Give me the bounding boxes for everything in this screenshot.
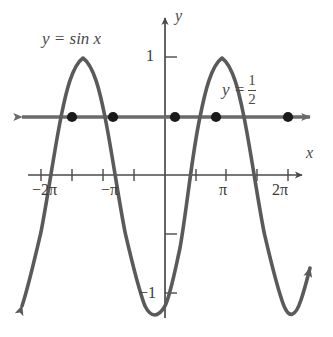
x-tick-label-neg-pi: −π: [101, 182, 118, 198]
x-tick-label-pi: π: [219, 182, 227, 198]
fraction-denominator: 2: [248, 92, 256, 108]
intersection-dot: [283, 112, 293, 122]
plot-canvas: [0, 0, 333, 337]
intersection-dot: [211, 112, 221, 122]
fraction-one-half: 12: [248, 73, 256, 108]
sine-curve-label: y = sin x: [42, 30, 101, 47]
x-tick-label-neg-two-pi: −2π: [32, 182, 57, 198]
x-tick-label-two-pi: 2π: [272, 182, 288, 198]
half-line-label-lhs: y =: [222, 80, 245, 99]
y-tick-label-neg-one: −1: [139, 285, 156, 301]
sine-half-intersection-figure: y = sin x y =12 x y −2π −π π 2π 1 −1: [0, 0, 333, 337]
y-axis-label: y: [175, 8, 182, 24]
half-line-label: y =12: [222, 74, 256, 109]
x-axis-label: x: [306, 145, 313, 161]
intersection-dot: [170, 112, 180, 122]
intersection-dot: [108, 112, 118, 122]
fraction-numerator: 1: [248, 73, 256, 89]
y-tick-label-one: 1: [146, 48, 154, 64]
intersection-dot: [67, 112, 77, 122]
sine-curve: [22, 58, 310, 315]
axes-group: [28, 18, 302, 318]
